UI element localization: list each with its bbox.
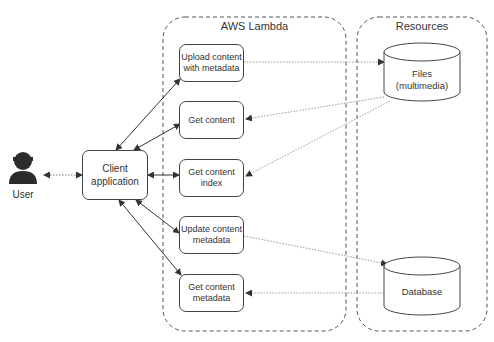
user-icon [9,152,37,184]
user-label: User [3,188,43,200]
files-label: Files (multimedia) [392,66,452,94]
client-application-node[interactable]: Client application [82,150,148,200]
lambda-get-metadata-node[interactable]: Get content metadata [179,274,244,312]
lambda-upload-node[interactable]: Upload content with metadata [179,44,244,82]
lambda-update-metadata-node[interactable]: Update content metadata [179,216,244,254]
aws-lambda-title: AWS Lambda [163,20,346,32]
lambda-get-index-node[interactable]: Get content index [179,159,244,197]
client-upload-link [116,79,180,150]
resources-title: Resources [357,20,487,32]
files-getindex-link [246,101,390,176]
client-getcontent-link [134,124,180,150]
lambda-get-content-node[interactable]: Get content [179,101,244,139]
files-getcontent-link [246,97,384,119]
database-label: Database [387,280,457,302]
update-database-link [244,236,387,264]
